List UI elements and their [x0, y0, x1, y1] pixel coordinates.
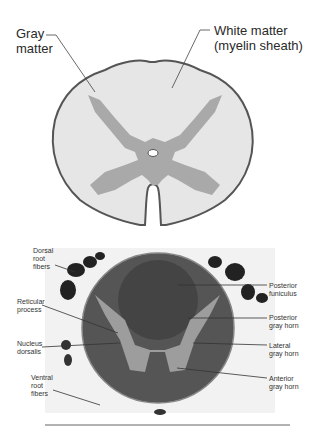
- label-lateral-gray-horn: Lateral gray horn: [269, 342, 299, 358]
- label-nucleus-dorsalis: Nucleus dorsalis: [17, 340, 42, 356]
- label-posterior-funiculus: Posterior funiculus: [269, 282, 297, 298]
- label-dorsal-root-fibers: Dorsal root fibers: [33, 247, 53, 271]
- label-ventral-root-fibers: Ventral root fibers: [31, 374, 53, 398]
- label-posterior-gray-horn: Posterior gray horn: [269, 314, 299, 330]
- label-reticular-process: Reticular process: [17, 298, 45, 314]
- spinal-cord-schematic: [0, 0, 314, 429]
- central-canal: [148, 150, 158, 157]
- label-anterior-gray-horn: Anterior gray horn: [269, 375, 299, 391]
- label-white-matter: White matter (myelin sheath): [214, 23, 303, 53]
- label-gray-matter: Gray matter: [16, 26, 53, 56]
